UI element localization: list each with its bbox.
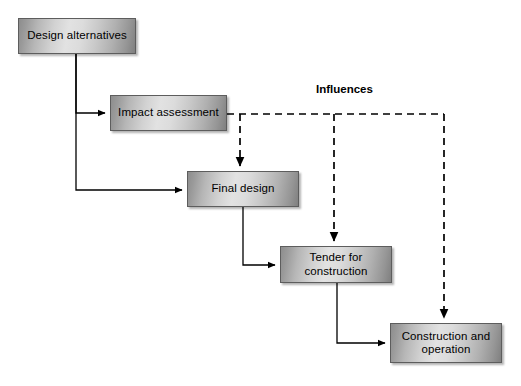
node-final-design[interactable]: Final design: [187, 171, 299, 207]
node-construction-line-2: operation: [422, 343, 471, 355]
influences-label: Influences: [316, 83, 373, 95]
diagram-canvas: Design alternatives Impact assessment Fi…: [0, 0, 521, 386]
edge-tender-to-construction: [337, 283, 385, 343]
node-tender-line-2: construction: [304, 265, 367, 277]
edge-final-design-to-tender: [243, 207, 275, 265]
node-construction-and-operation-label: Construction and operation: [398, 330, 495, 357]
node-tender-for-construction[interactable]: Tender for construction: [280, 246, 392, 283]
node-final-design-label: Final design: [207, 182, 278, 196]
node-tender-line-1: Tender for: [310, 251, 363, 263]
node-construction-and-operation[interactable]: Construction and operation: [390, 323, 502, 363]
node-impact-assessment[interactable]: Impact assessment: [110, 95, 227, 131]
node-design-alternatives[interactable]: Design alternatives: [18, 18, 136, 54]
edge-design-to-impact: [76, 54, 105, 113]
node-design-alternatives-label: Design alternatives: [23, 29, 131, 43]
node-tender-for-construction-label: Tender for construction: [300, 251, 371, 278]
node-construction-line-1: Construction and: [402, 330, 491, 342]
node-impact-assessment-label: Impact assessment: [114, 106, 223, 120]
